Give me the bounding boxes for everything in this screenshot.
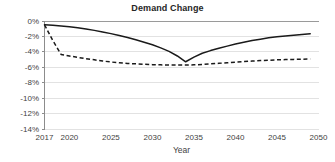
x-tick-label: 2035 xyxy=(185,133,203,142)
gridlines xyxy=(45,22,319,130)
y-tick-labels: 0%-2%-4%-6%-8%-10%-12%-14% xyxy=(20,17,39,134)
y-tick-label: 0% xyxy=(27,17,39,26)
x-tick-label: 2020 xyxy=(61,133,79,142)
y-tick-label: -12% xyxy=(20,109,39,118)
y-tick-label: -10% xyxy=(20,94,39,103)
y-tick-label: -8% xyxy=(25,78,39,87)
x-axis-title: Year xyxy=(173,145,190,155)
y-tick-label: -2% xyxy=(25,32,39,41)
x-tick-labels: 20172020202520302035204020452050 xyxy=(36,133,328,142)
series-line-dashed xyxy=(45,25,311,65)
y-tick-label: -6% xyxy=(25,63,39,72)
data-series xyxy=(45,25,311,65)
demand-change-chart: Demand Change 0%-2%-4%-6%-8%-10%-12%-14%… xyxy=(0,0,335,162)
x-tick-label: 2040 xyxy=(227,133,245,142)
series-line-solid xyxy=(45,25,311,62)
x-tick-label: 2045 xyxy=(268,133,286,142)
y-tick-label: -4% xyxy=(25,47,39,56)
chart-plot-area: 0%-2%-4%-6%-8%-10%-12%-14% 2017202020252… xyxy=(0,0,335,162)
x-tick-label: 2025 xyxy=(102,133,120,142)
x-tick-label: 2017 xyxy=(36,133,54,142)
x-tick-label: 2050 xyxy=(310,133,328,142)
x-tick-label: 2030 xyxy=(144,133,162,142)
x-axis-title-label: Year xyxy=(173,145,190,155)
